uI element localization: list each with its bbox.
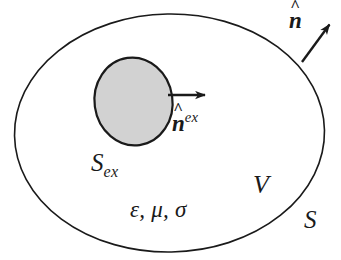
label-medium-parameters: ε, μ, σ: [130, 198, 187, 221]
label-excluded-normal: ^ n ex: [172, 110, 198, 135]
excluded-region-ellipse: [89, 53, 178, 151]
n-hat-glyph: ^ n: [289, 9, 302, 32]
figure-canvas: ^ n ^ n ex Sex V S ε, μ, σ: [0, 0, 341, 260]
outer-normal-arrow: [302, 25, 330, 63]
label-outer-normal: ^ n: [289, 9, 302, 32]
n-hat-ex-glyph: ^ n: [172, 112, 185, 135]
excluded-surface-subscript: ex: [104, 163, 119, 180]
label-surface: S: [304, 207, 317, 232]
label-volume: V: [253, 172, 269, 198]
excluded-surface-symbol: S: [91, 149, 104, 176]
hat-accent-icon: ^: [173, 100, 183, 117]
hat-accent-icon: ^: [290, 0, 300, 14]
excluded-normal-superscript: ex: [185, 109, 199, 125]
label-excluded-surface: Sex: [91, 150, 118, 180]
